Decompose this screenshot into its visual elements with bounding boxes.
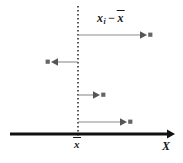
- mean-x-letter: x: [118, 11, 125, 25]
- deviation-arrow-4: [78, 118, 132, 126]
- variable-x-symbol: x: [97, 12, 104, 24]
- deviation-arrow-2: [46, 58, 78, 66]
- mean-tick-letter: x: [74, 138, 80, 150]
- minus-operator: −: [106, 11, 117, 25]
- deviation-arrow-group: [46, 31, 153, 126]
- overbar: [116, 10, 125, 11]
- deviation-arrow-3: [78, 91, 105, 99]
- mean-x-bar-symbol: x: [118, 12, 125, 24]
- deviation-diagram: xi−x x X: [0, 0, 183, 163]
- overbar: [73, 137, 81, 138]
- mean-tick-label: x: [74, 139, 80, 150]
- x-axis: [10, 130, 175, 139]
- mean-tick-x-bar-symbol: x: [74, 139, 80, 150]
- variable-x-letter: x: [97, 11, 104, 25]
- diagram-canvas: [0, 0, 183, 163]
- deviation-arrow-1: [78, 31, 152, 39]
- axis-label-x: X: [162, 140, 170, 152]
- deviation-formula-label: xi−x: [97, 12, 124, 26]
